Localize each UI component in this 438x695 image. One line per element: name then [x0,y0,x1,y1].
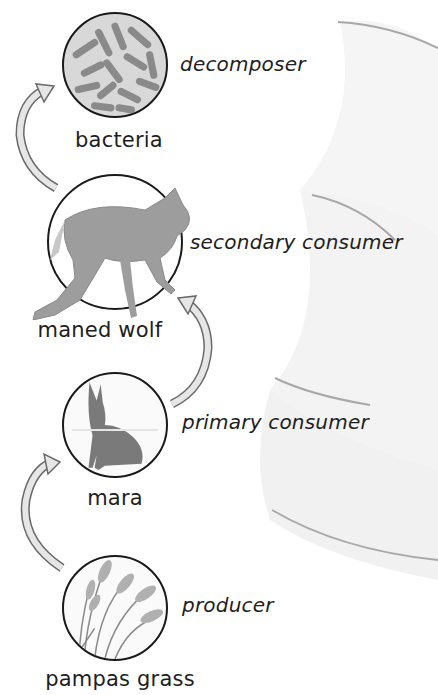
maned-wolf-icon [25,180,200,320]
bacteria-circle [62,12,168,118]
organism-name: mara [87,486,143,510]
trophic-role: producer [182,593,274,617]
trophic-role: decomposer [180,52,306,76]
organism-name: pampas grass [45,667,195,691]
organism-name: maned wolf [38,318,163,342]
pampas-grass-icon [64,557,166,659]
mara-icon [64,374,166,476]
trophic-role: primary consumer [182,410,369,434]
mara-circle [62,372,168,478]
trophic-role: secondary consumer [190,230,403,254]
pampas-grass-circle [62,555,168,661]
organism-name: bacteria [75,128,163,152]
bacteria-icon [64,14,166,116]
